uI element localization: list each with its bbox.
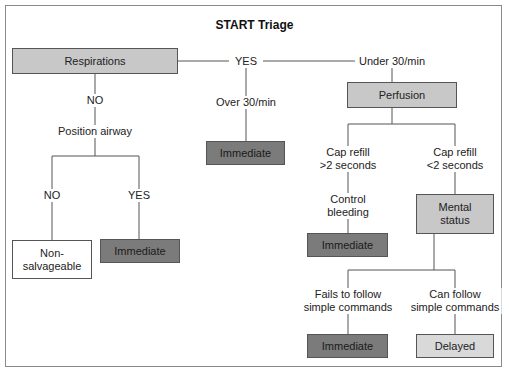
airway-no-label: NO: [42, 189, 63, 202]
immediate-over-30-node: Immediate: [206, 141, 285, 165]
position-airway-label: Position airway: [56, 125, 134, 138]
immediate-airway-yes-node: Immediate: [100, 239, 180, 263]
under-30-label: Under 30/min: [355, 55, 429, 68]
respirations-node: Respirations: [12, 48, 178, 74]
mental-status-node: Mental status: [416, 194, 494, 234]
control-bleeding-line1: Control: [327, 193, 369, 206]
cap-refill-lt2-line1: Cap refill: [427, 146, 484, 159]
respirations-yes-label: YES: [229, 55, 263, 68]
immediate-fails-commands-node: Immediate: [307, 334, 388, 358]
delayed-node: Delayed: [416, 334, 494, 358]
non-salvageable-node: Non- salvageable: [12, 240, 92, 279]
cap-refill-gt2-line2: >2 seconds: [320, 159, 377, 172]
perfusion-label: Perfusion: [379, 89, 425, 102]
can-follow-line1: Can follow: [411, 288, 500, 301]
cap-refill-gt2-line1: Cap refill: [320, 146, 377, 159]
immediate-airway-yes-label: Immediate: [114, 245, 165, 258]
can-follow-line2: simple commands: [411, 301, 500, 314]
control-bleeding-line2: bleeding: [327, 206, 369, 219]
can-follow-commands-label: Can follow simple commands: [409, 288, 502, 314]
airway-yes-label: YES: [126, 189, 152, 202]
immediate-control-bleeding-label: Immediate: [322, 239, 373, 252]
fails-commands-line2: simple commands: [304, 301, 393, 314]
diagram-title: START Triage: [0, 18, 509, 32]
cap-refill-lt2-label: Cap refill <2 seconds: [425, 146, 486, 172]
control-bleeding-label: Control bleeding: [325, 193, 371, 219]
delayed-label: Delayed: [435, 340, 475, 353]
cap-refill-gt2-label: Cap refill >2 seconds: [318, 146, 379, 172]
respirations-label: Respirations: [64, 55, 125, 68]
over-30-label: Over 30/min: [214, 96, 278, 109]
perfusion-node: Perfusion: [347, 82, 457, 108]
fails-commands-line1: Fails to follow: [304, 288, 393, 301]
mental-status-label: Mental status: [438, 201, 471, 227]
non-salvageable-label: Non- salvageable: [23, 247, 82, 273]
fails-commands-label: Fails to follow simple commands: [302, 288, 395, 314]
cap-refill-lt2-line2: <2 seconds: [427, 159, 484, 172]
respirations-no-label: NO: [85, 94, 106, 107]
immediate-control-bleeding-node: Immediate: [307, 233, 388, 257]
immediate-fails-commands-label: Immediate: [322, 340, 373, 353]
immediate-over-30-label: Immediate: [220, 147, 271, 160]
